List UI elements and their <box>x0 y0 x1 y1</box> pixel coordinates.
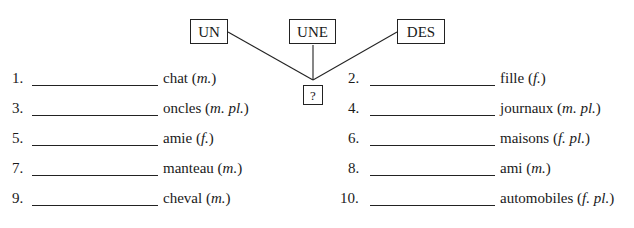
gender-label: m. <box>223 160 238 176</box>
answer-blank[interactable] <box>370 175 495 176</box>
exercise-item-5: 5. amie (f.) <box>0 130 320 152</box>
answer-blank[interactable] <box>32 85 158 86</box>
item-number: 6. <box>348 130 359 147</box>
item-number: 5. <box>12 130 23 147</box>
noun-label: manteau (m.) <box>163 160 242 177</box>
article-box-des: DES <box>397 19 445 44</box>
answer-blank[interactable] <box>32 145 158 146</box>
noun-label: oncles (m. pl.) <box>163 100 249 117</box>
gender-label: f. <box>201 130 209 146</box>
gender-label: f. pl. <box>582 190 609 206</box>
article-label: DES <box>407 24 435 40</box>
article-label: UNE <box>297 24 328 40</box>
item-number: 7. <box>12 160 23 177</box>
answer-blank[interactable] <box>32 115 158 116</box>
noun-label: maisons (f. pl.) <box>500 130 590 147</box>
exercise-item-2: 2. fille (f.) <box>336 70 634 92</box>
exercise-item-7: 7. manteau (m.) <box>0 160 320 182</box>
article-box-une: UNE <box>289 19 336 44</box>
gender-label: f. <box>533 70 541 86</box>
gender-label: m. <box>531 160 546 176</box>
exercise-item-9: 9. cheval (m.) <box>0 190 320 212</box>
gender-label: m. pl. <box>210 100 244 116</box>
exercise-item-8: 8. ami (m.) <box>336 160 634 182</box>
item-number: 4. <box>348 100 359 117</box>
item-number: 9. <box>12 190 23 207</box>
noun-label: ami (m.) <box>500 160 551 177</box>
answer-blank[interactable] <box>32 175 158 176</box>
noun-label: amie (f.) <box>163 130 214 147</box>
exercise-item-1: 1. chat (m.) <box>0 70 320 92</box>
answer-blank[interactable] <box>370 205 495 206</box>
item-number: 10. <box>340 190 359 207</box>
noun-label: chat (m.) <box>163 70 216 87</box>
exercise-item-10: 10. automobiles (f. pl.) <box>336 190 634 212</box>
answer-blank[interactable] <box>32 205 158 206</box>
article-box-un: UN <box>190 19 228 44</box>
gender-label: m. pl. <box>562 100 596 116</box>
gender-label: f. pl. <box>558 130 585 146</box>
item-number: 1. <box>12 70 23 87</box>
gender-label: m. <box>197 70 212 86</box>
item-number: 3. <box>12 100 23 117</box>
exercise-item-4: 4. journaux (m. pl.) <box>336 100 634 122</box>
noun-label: cheval (m.) <box>163 190 230 207</box>
answer-blank[interactable] <box>370 145 495 146</box>
item-number: 2. <box>348 70 359 87</box>
item-number: 8. <box>348 160 359 177</box>
noun-label: fille (f.) <box>500 70 546 87</box>
gender-label: m. <box>211 190 226 206</box>
article-label: UN <box>198 24 220 40</box>
answer-blank[interactable] <box>370 115 495 116</box>
answer-blank[interactable] <box>370 85 495 86</box>
exercise-item-6: 6. maisons (f. pl.) <box>336 130 634 152</box>
noun-label: automobiles (f. pl.) <box>500 190 614 207</box>
exercise-item-3: 3. oncles (m. pl.) <box>0 100 320 122</box>
noun-label: journaux (m. pl.) <box>500 100 601 117</box>
